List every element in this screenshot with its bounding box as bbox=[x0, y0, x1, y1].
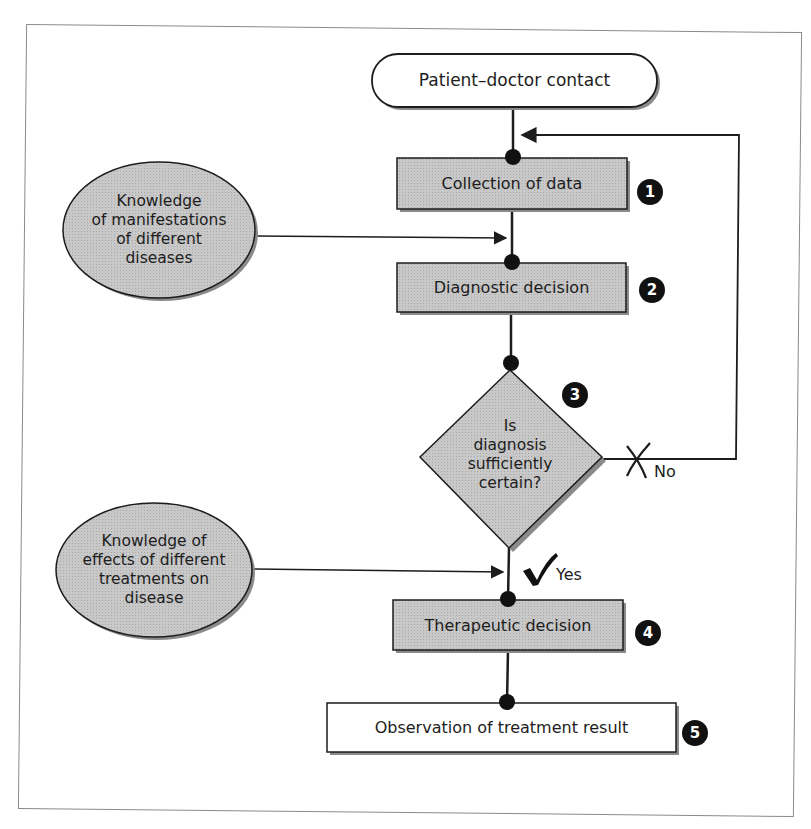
certainty-question-line-3: sufficiently bbox=[468, 455, 553, 474]
manifestations-line-2: of manifestations bbox=[91, 211, 226, 230]
start-terminal-label: Patient–doctor contact bbox=[372, 54, 657, 107]
flowchart-canvas: Patient–doctor contact Collection of dat… bbox=[0, 0, 811, 829]
diagnostic-decision-label: Diagnostic decision bbox=[397, 263, 626, 312]
treatments-line-3: treatments on bbox=[99, 570, 209, 589]
manifestations-knowledge-label: Knowledge of manifestations of different… bbox=[63, 190, 255, 270]
manifestations-line-4: diseases bbox=[126, 249, 193, 268]
step-badge-3: 3 bbox=[562, 382, 588, 408]
therapeutic-decision-label: Therapeutic decision bbox=[393, 600, 623, 650]
observation-label: Observation of treatment result bbox=[327, 703, 676, 752]
input-arrow-manifestations bbox=[255, 236, 506, 238]
treatments-line-2: effects of different bbox=[82, 551, 225, 570]
no-cross-icon bbox=[627, 443, 650, 478]
step-badge-5: 5 bbox=[682, 720, 708, 746]
certainty-question-line-2: diagnosis bbox=[473, 436, 546, 455]
no-branch-label: No bbox=[654, 462, 676, 481]
step-badge-2: 2 bbox=[639, 277, 665, 303]
certainty-question-label: Is diagnosis sufficiently certain? bbox=[450, 415, 570, 495]
treatments-line-4: disease bbox=[125, 589, 184, 608]
treatments-line-1: Knowledge of bbox=[101, 532, 206, 551]
certainty-question-line-4: certain? bbox=[479, 474, 541, 493]
manifestations-line-1: Knowledge bbox=[116, 192, 201, 211]
treatments-knowledge-label: Knowledge of effects of different treatm… bbox=[56, 530, 252, 610]
input-arrow-treatments bbox=[253, 569, 503, 572]
yes-check-icon bbox=[523, 553, 558, 586]
step-badge-4: 4 bbox=[635, 620, 661, 646]
collection-of-data-label: Collection of data bbox=[397, 158, 627, 209]
yes-branch-label: Yes bbox=[556, 565, 582, 584]
manifestations-line-3: of different bbox=[116, 230, 202, 249]
step-badge-1: 1 bbox=[637, 179, 663, 205]
certainty-question-line-1: Is bbox=[504, 417, 517, 436]
